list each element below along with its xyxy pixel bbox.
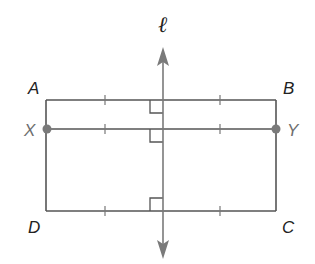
right-angle-markers	[150, 100, 163, 211]
point-x-dot	[43, 125, 52, 134]
point-y-dot	[272, 125, 281, 134]
right-angle-ab	[150, 100, 163, 113]
label-b: B	[283, 79, 294, 98]
right-angle-xy	[150, 129, 163, 142]
geometry-diagram: ℓ A B X Y D C	[0, 0, 315, 264]
label-x: X	[23, 121, 36, 140]
label-d: D	[28, 218, 40, 237]
rectangle-abcd	[46, 100, 276, 211]
label-line-l: ℓ	[158, 12, 168, 37]
label-c: C	[282, 218, 295, 237]
label-y: Y	[287, 121, 300, 140]
right-angle-dc	[150, 198, 163, 211]
line-l	[157, 47, 169, 259]
label-a: A	[27, 79, 39, 98]
